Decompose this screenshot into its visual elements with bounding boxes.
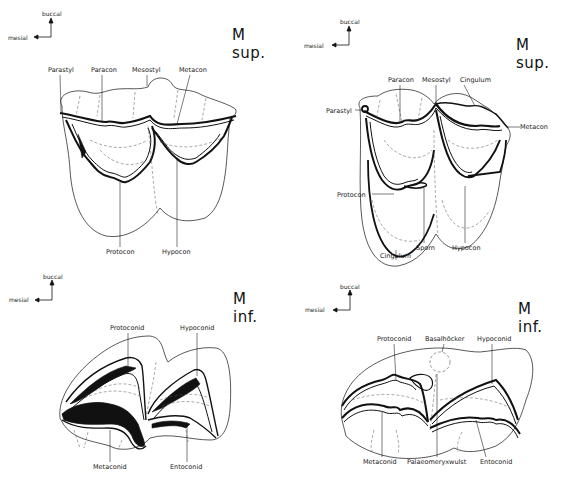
panel-title: M inf. bbox=[518, 300, 543, 336]
orientation-arrow-upper-left bbox=[34, 18, 53, 39]
label-sporn: Sporn bbox=[416, 244, 435, 252]
label-protocon: Protocon bbox=[106, 248, 135, 256]
label-protoconid: Protoconid bbox=[110, 324, 144, 332]
label-parastyl: Parastyl bbox=[48, 66, 74, 74]
label-hypoconid: Hypoconid bbox=[477, 335, 511, 343]
label-paracon: Paracon bbox=[91, 66, 117, 74]
orientation-label-mesial: mesial bbox=[305, 306, 325, 313]
panel-title: M sup. bbox=[232, 26, 266, 62]
label-metaconid: Metaconid bbox=[93, 463, 127, 471]
label-cingulum-bottom: Cingulum bbox=[380, 252, 411, 260]
orientation-arrow-upper-right bbox=[332, 26, 351, 47]
orientation-label-buccal: buccal bbox=[43, 273, 63, 280]
leader-lines bbox=[60, 75, 520, 462]
panel-title: M sup. bbox=[516, 36, 550, 72]
label-protoconid: Protoconid bbox=[377, 335, 411, 343]
orientation-arrow-lower-left bbox=[35, 280, 54, 302]
orientation-label-buccal: buccal bbox=[340, 283, 360, 290]
label-basalhoecker: Basalhöcker bbox=[425, 335, 465, 343]
label-parastyl: Parastyl bbox=[326, 107, 352, 115]
label-mesostyl: Mesostyl bbox=[422, 76, 451, 84]
orientation-label-mesial: mesial bbox=[304, 42, 324, 49]
upper-right-molar bbox=[359, 89, 510, 266]
upper-left-molar bbox=[60, 78, 236, 237]
label-cingulum-top: Cingulum bbox=[460, 76, 491, 84]
label-hypoconid: Hypoconid bbox=[180, 324, 214, 332]
label-entoconid: Entoconid bbox=[170, 463, 202, 471]
orientation-label-buccal: buccal bbox=[340, 18, 360, 25]
label-protocon: Protocon bbox=[337, 191, 366, 199]
orientation-arrow-lower-right bbox=[333, 290, 352, 312]
label-hypocon: Hypocon bbox=[162, 248, 191, 256]
label-mesostyl: Mesostyl bbox=[132, 66, 161, 74]
label-paracon: Paracon bbox=[388, 76, 414, 84]
orientation-label-mesial: mesial bbox=[9, 296, 29, 303]
orientation-label-buccal: buccal bbox=[42, 10, 62, 17]
tooth-figure-drawing bbox=[0, 0, 571, 478]
label-metaconid: Metaconid bbox=[363, 458, 397, 466]
label-entoconid: Entoconid bbox=[480, 458, 512, 466]
label-metacon: Metacon bbox=[520, 123, 548, 131]
orientation-label-mesial: mesial bbox=[8, 34, 28, 41]
label-hypocon: Hypocon bbox=[452, 244, 481, 252]
panel-title: M inf. bbox=[233, 290, 258, 326]
lower-left-molar bbox=[60, 336, 231, 450]
label-metacon: Metacon bbox=[179, 66, 207, 74]
label-palaeomeryxwulst: Palaeomeryxwulst bbox=[407, 458, 466, 466]
